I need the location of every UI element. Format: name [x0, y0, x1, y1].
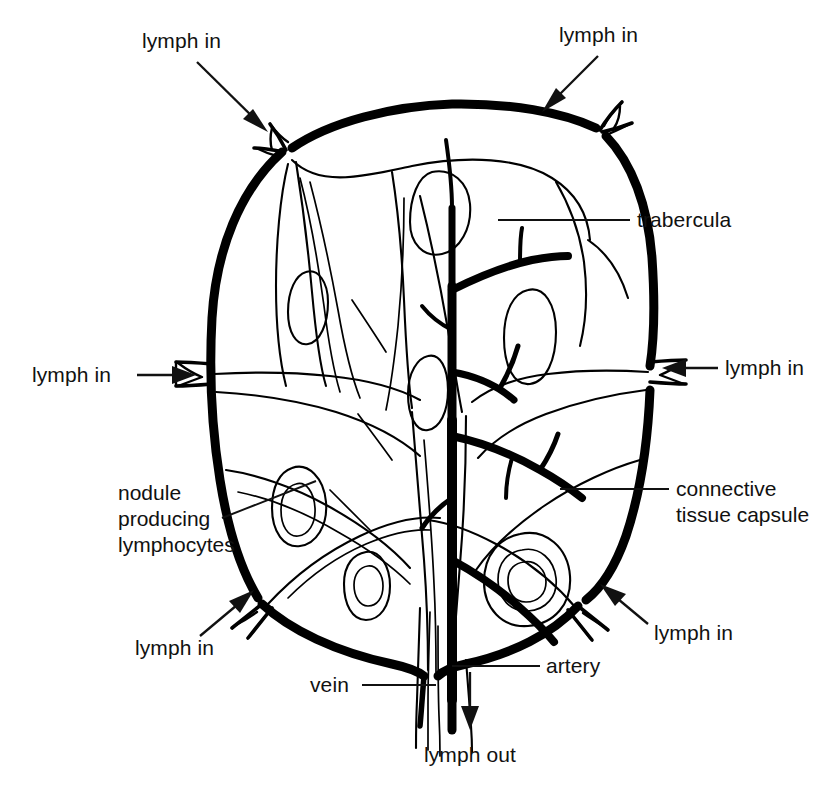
label-trabercula: trabercula	[498, 208, 732, 231]
lymph-in-top-right-text: lymph in	[559, 23, 638, 46]
trabercula-text: trabercula	[637, 208, 732, 231]
lymph-in-left-text: lymph in	[32, 363, 111, 386]
lymph-in-bottom-right-text: lymph in	[654, 621, 733, 644]
artery-vessel	[422, 140, 582, 730]
trabeculae-network	[214, 160, 648, 672]
lymph-node-diagram: lymph in lymph in lymph in lymph in lymp…	[0, 0, 836, 787]
lymph-node-figure: lymph in lymph in lymph in lymph in lymp…	[0, 0, 836, 787]
label-lymph-in-top-right: lymph in	[542, 23, 638, 112]
nodule-text-line3: lymphocytes	[118, 533, 235, 556]
label-connective-tissue-capsule: connective tissue capsule	[560, 477, 809, 526]
lymph-out-text: lymph out	[424, 743, 516, 766]
lymph-nodules-group	[272, 171, 570, 626]
nodule-text-line1: nodule	[118, 481, 181, 504]
afferent-lymph-vessel-top-right	[600, 102, 632, 135]
vein-text: vein	[310, 673, 349, 696]
label-nodule-producing-lymphocytes: nodule producing lymphocytes	[118, 481, 316, 556]
label-lymph-in-left: lymph in	[32, 363, 196, 386]
label-lymph-in-top-left: lymph in	[142, 29, 268, 132]
nodule-text-line2: producing	[118, 507, 210, 530]
label-lymph-in-bottom-right: lymph in	[600, 584, 733, 644]
afferent-lymph-vessel-top-left	[254, 124, 288, 157]
lymph-in-right-text: lymph in	[725, 356, 804, 379]
lymph-out-arrowhead	[461, 706, 479, 730]
lymph-in-top-left-text: lymph in	[142, 29, 221, 52]
connective-tissue-capsule-text-line2: tissue capsule	[676, 503, 809, 526]
lymph-in-bottom-left-text: lymph in	[135, 636, 214, 659]
artery-text: artery	[546, 654, 601, 677]
connective-tissue-capsule-text-line1: connective	[676, 477, 776, 500]
lymph-in-top-left-arrow-line	[197, 62, 258, 122]
